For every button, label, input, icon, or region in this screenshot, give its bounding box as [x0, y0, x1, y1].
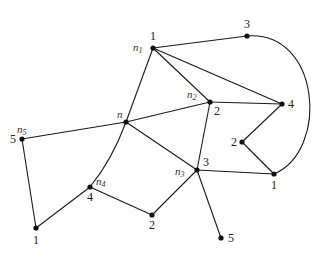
node-value-n3: 3 — [203, 155, 209, 169]
node-botleft1 — [33, 225, 38, 230]
graph-svg: 1n132n24n23n315n54n4215 — [0, 0, 324, 258]
node-n — [123, 119, 128, 124]
edge-n5-botleft1 — [22, 139, 36, 228]
edge-n4-bot2 — [90, 187, 152, 215]
node-value-n4: 4 — [87, 190, 93, 204]
edges-layer — [22, 36, 310, 238]
node-name-n2: n2 — [187, 88, 197, 102]
node-name-n: n — [117, 108, 123, 120]
node-value-mid2: 2 — [231, 135, 237, 149]
graph-diagram: 1n132n24n23n315n54n4215 — [0, 0, 324, 258]
node-name-n1: n1 — [133, 41, 143, 55]
node-right4 — [279, 101, 284, 106]
edge-mid2-right1 — [242, 142, 274, 174]
node-n5 — [19, 136, 24, 141]
edge-n-n5 — [22, 122, 126, 139]
node-bot2 — [149, 212, 154, 217]
node-value-n1: 1 — [150, 29, 156, 43]
nodes-layer — [19, 33, 284, 240]
node-value-bot2: 2 — [149, 218, 155, 232]
node-mid2 — [239, 139, 244, 144]
node-name-n4: n4 — [96, 175, 106, 189]
node-n2 — [207, 99, 212, 104]
edge-n1-n2 — [153, 48, 210, 102]
edge-right4-mid2 — [242, 104, 282, 142]
edge-top3-right1 — [247, 36, 310, 174]
node-n3 — [194, 167, 199, 172]
node-value-n2: 2 — [214, 104, 220, 118]
node-value-right1: 1 — [271, 178, 277, 192]
edge-n2-right4 — [210, 102, 282, 104]
node-n1 — [150, 45, 155, 50]
edge-n1-top3 — [153, 36, 247, 48]
node-name-n5: n5 — [17, 123, 27, 137]
edge-n3-bot5 — [197, 170, 221, 238]
node-value-top3: 3 — [244, 17, 250, 31]
node-value-bot5: 5 — [228, 231, 234, 245]
node-value-right4: 4 — [288, 97, 294, 111]
node-bot5 — [218, 235, 223, 240]
edge-n-n3 — [126, 122, 197, 170]
edge-n2-n — [126, 102, 210, 122]
edge-n1-n — [126, 48, 153, 122]
node-right1 — [271, 171, 276, 176]
node-name-n3: n3 — [175, 165, 185, 179]
node-top3 — [244, 33, 249, 38]
edge-n3-right1 — [197, 170, 274, 174]
node-value-n5: 5 — [10, 132, 16, 146]
edge-n1-right4 — [153, 48, 282, 104]
edge-botleft1-n4 — [36, 187, 90, 228]
node-value-botleft1: 1 — [33, 233, 39, 247]
node-n4 — [87, 184, 92, 189]
